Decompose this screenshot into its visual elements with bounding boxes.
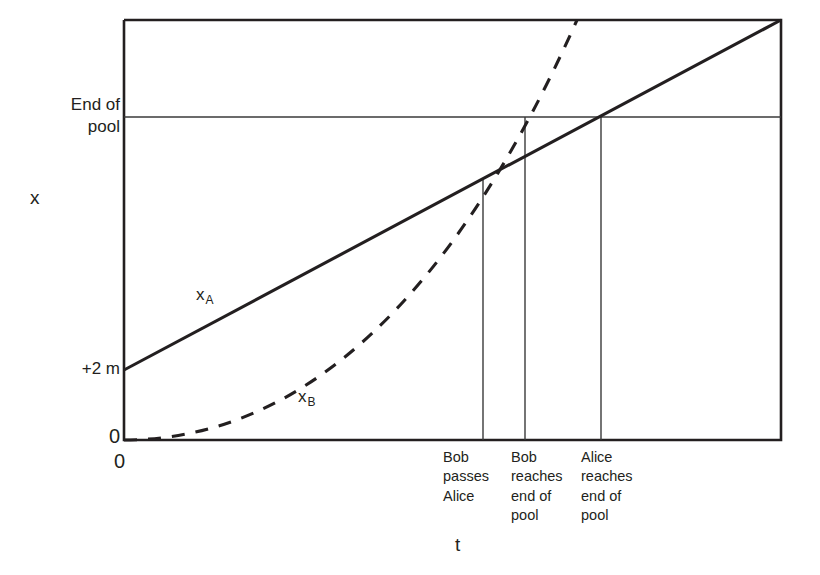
curve-label-x-b: xB — [298, 386, 315, 408]
x-tick-zero: 0 — [114, 449, 125, 475]
curve-label-x-a-base: x — [196, 285, 205, 304]
y-tick-end-of-pool: End ofpool — [18, 94, 120, 138]
axis-frame — [124, 20, 781, 440]
y-axis-label: x — [30, 186, 40, 210]
curve-label-x-a: xA — [196, 284, 213, 306]
x-axis-label: t — [455, 533, 460, 557]
plot-canvas — [0, 0, 820, 575]
event-annotation-bob-passes-alice: Bob passes Alice — [443, 448, 505, 506]
y-tick-end-of-pool-line1: End of — [71, 95, 120, 114]
position-time-graph-figure: x t End ofpool +2 m 0 0 xA xB Bob passes… — [0, 0, 820, 575]
curve-label-x-b-sub: B — [308, 395, 316, 409]
y-tick-plus-two-meters: +2 m — [36, 358, 120, 380]
series-curve-x-b — [124, 20, 577, 440]
y-tick-end-of-pool-line2: pool — [88, 117, 120, 136]
y-tick-zero: 0 — [72, 424, 120, 450]
curve-label-x-a-sub: A — [206, 293, 214, 307]
curve-label-x-b-base: x — [298, 387, 307, 406]
event-annotation-alice-reaches-end-of-pool: Alice reaches end of pool — [581, 448, 647, 525]
axis-box — [124, 20, 781, 440]
event-annotation-bob-reaches-end-of-pool: Bob reaches end of pool — [511, 448, 577, 525]
series-line-x-a — [124, 20, 781, 370]
